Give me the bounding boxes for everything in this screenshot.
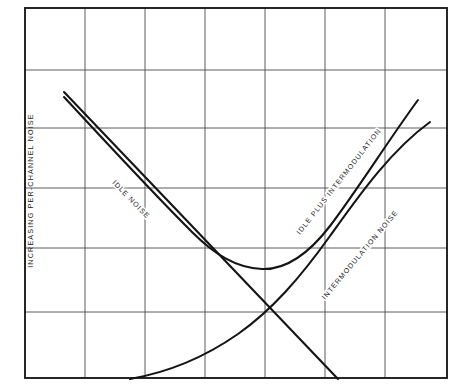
chart-svg: IDLE NOISE IDLE NOISE IDLE PLUS INTERMOD… bbox=[0, 0, 458, 392]
horizontal-gridlines bbox=[25, 70, 447, 312]
y-axis-label: INCREASING PER-CHANNEL NOISE bbox=[26, 91, 35, 291]
noise-chart-figure: INCREASING PER-CHANNEL NOISE bbox=[0, 0, 458, 392]
curve-idle-noise bbox=[64, 92, 338, 379]
plot-frame bbox=[25, 8, 447, 378]
